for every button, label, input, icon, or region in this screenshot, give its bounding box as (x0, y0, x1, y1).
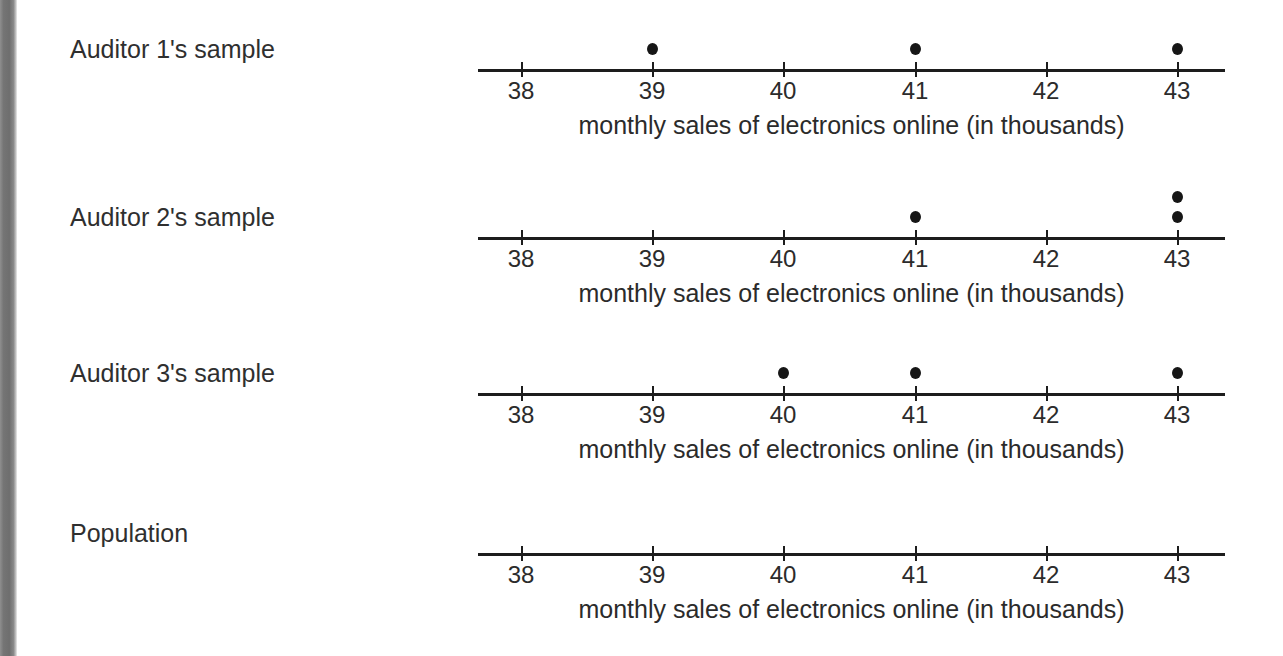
axis-tick (1046, 62, 1048, 77)
axis-tick-label: 39 (622, 402, 682, 428)
axis-tick-label: 41 (885, 402, 945, 428)
axis-tick (1177, 230, 1179, 245)
axis-tick (652, 230, 654, 245)
axis-tick (915, 230, 917, 245)
axis-tick (652, 62, 654, 77)
data-dot (910, 367, 921, 379)
axis-tick (521, 386, 523, 401)
axis-tick-label: 42 (1016, 246, 1076, 272)
axis-caption: monthly sales of electronics online (in … (478, 110, 1225, 140)
axis-caption: monthly sales of electronics online (in … (478, 594, 1225, 624)
data-dot (1172, 211, 1183, 223)
axis-tick (1177, 386, 1179, 401)
axis-caption: monthly sales of electronics online (in … (478, 434, 1225, 464)
axis-tick (1046, 546, 1048, 561)
axis-tick-label: 39 (622, 78, 682, 104)
axis-tick-label: 41 (885, 562, 945, 588)
axis-tick-label: 43 (1147, 402, 1207, 428)
axis-tick (1177, 546, 1179, 561)
number-line-axis (478, 393, 1225, 396)
axis-tick (915, 62, 917, 77)
number-line-axis (478, 69, 1225, 72)
axis-tick (521, 62, 523, 77)
axis-tick-label: 39 (622, 562, 682, 588)
series-label: Population (70, 518, 188, 548)
axis-tick-label: 40 (753, 402, 813, 428)
data-dot (1172, 367, 1183, 379)
axis-tick-label: 40 (753, 562, 813, 588)
axis-tick-label: 38 (491, 402, 551, 428)
axis-tick-label: 42 (1016, 78, 1076, 104)
axis-tick-label: 43 (1147, 562, 1207, 588)
series-label: Auditor 1's sample (70, 34, 275, 64)
axis-tick-label: 41 (885, 246, 945, 272)
axis-caption: monthly sales of electronics online (in … (478, 278, 1225, 308)
axis-tick-label: 42 (1016, 562, 1076, 588)
axis-tick-label: 39 (622, 246, 682, 272)
axis-tick (1177, 62, 1179, 77)
data-dot (778, 367, 789, 379)
data-dot (1172, 191, 1183, 203)
axis-tick (652, 386, 654, 401)
axis-tick (783, 546, 785, 561)
axis-tick (521, 230, 523, 245)
number-line-axis (478, 237, 1225, 240)
axis-tick (783, 230, 785, 245)
axis-tick-label: 40 (753, 78, 813, 104)
axis-tick (783, 386, 785, 401)
dot-plot-sheet: Auditor 1's sample383940414243monthly sa… (0, 0, 1283, 656)
data-dot (1172, 43, 1183, 55)
axis-tick-label: 43 (1147, 246, 1207, 272)
axis-tick (1046, 386, 1048, 401)
number-line-axis (478, 553, 1225, 556)
data-dot (910, 211, 921, 223)
axis-tick (915, 386, 917, 401)
data-dot (910, 43, 921, 55)
axis-tick (915, 546, 917, 561)
axis-tick-label: 40 (753, 246, 813, 272)
axis-tick-label: 43 (1147, 78, 1207, 104)
axis-tick-label: 42 (1016, 402, 1076, 428)
axis-tick-label: 38 (491, 78, 551, 104)
axis-tick-label: 41 (885, 78, 945, 104)
axis-tick (521, 546, 523, 561)
axis-tick-label: 38 (491, 562, 551, 588)
axis-tick (652, 546, 654, 561)
axis-tick-label: 38 (491, 246, 551, 272)
series-label: Auditor 2's sample (70, 202, 275, 232)
axis-tick (783, 62, 785, 77)
axis-tick (1046, 230, 1048, 245)
data-dot (647, 43, 658, 55)
series-label: Auditor 3's sample (70, 358, 275, 388)
